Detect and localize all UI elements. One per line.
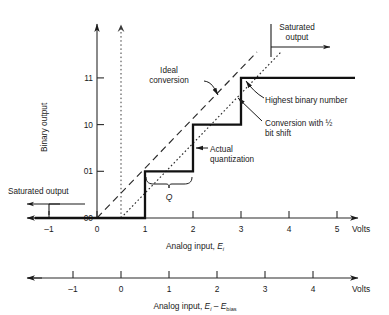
highest-binary-number-annotation: Highest binary number: [246, 81, 348, 105]
ideal-conversion-line2: conversion: [149, 76, 189, 85]
x-tick-label-4: 4: [287, 224, 292, 234]
x-tick-label-0: 0: [95, 224, 100, 234]
x-axis-primary-title-prefix: Analog input,: [166, 241, 217, 251]
highest-binary-number-label: Highest binary number: [265, 96, 348, 105]
y-tick-label-11: 11: [84, 73, 93, 83]
x2-tick-label-1: 1: [167, 284, 172, 294]
ideal-conversion-line1: Ideal: [160, 66, 178, 75]
ideal-conversion-annotation: Ideal conversion: [149, 66, 218, 95]
saturated-output-right-annotation: Saturated output: [271, 23, 330, 57]
adc-transfer-function-figure: 00 01 10 11 Binary output –1 0 1 2 3 4 5…: [0, 0, 389, 315]
x2-tick-label--1: –1: [68, 284, 78, 294]
x-axis-secondary: –1 0 1 2 3 4 Volts Analog input, Ei – Eb…: [27, 271, 370, 312]
saturated-output-right-line1: Saturated: [279, 23, 315, 32]
half-bit-shift-line1: Conversion with ½: [265, 119, 333, 128]
x2-tick-label-4: 4: [311, 284, 316, 294]
quantum-brace-shape: [146, 177, 192, 188]
x2-tick-label-3: 3: [263, 284, 268, 294]
x-tick-label-2: 2: [191, 224, 196, 234]
half-bit-reference-line: [118, 25, 125, 219]
x2-tick-label-0: 0: [119, 284, 124, 294]
x-tick-label-1: 1: [143, 224, 148, 234]
x-tick-label-3: 3: [239, 224, 244, 234]
y-tick-label-01: 01: [84, 166, 94, 176]
x-axis-primary-unit: Volts: [352, 224, 370, 234]
x-axis-secondary-title: Analog input, Ei – Ebias: [153, 301, 236, 312]
x-axis-primary-title: Analog input, Ei: [166, 241, 225, 252]
quantum-step-brace: Q: [146, 177, 192, 202]
saturated-output-right-line2: output: [286, 33, 309, 42]
y-tick-label-10: 10: [84, 120, 94, 130]
quantum-step-label: Q: [166, 192, 173, 202]
adc-quantization-chart: 00 01 10 11 Binary output –1 0 1 2 3 4 5…: [0, 0, 389, 315]
x2-title-minus: –: [211, 301, 220, 311]
half-bit-shift-line2: bit shift: [265, 129, 292, 138]
saturated-output-left-label: Saturated output: [8, 187, 69, 196]
saturated-output-left-annotation: Saturated output: [8, 187, 85, 215]
x-tick-label--1: –1: [44, 224, 54, 234]
x2-tick-label-2: 2: [215, 284, 220, 294]
actual-quantization-line2: quantization: [210, 155, 255, 164]
x-axis-primary-title-subscript: i: [223, 246, 225, 252]
actual-quantization-annotation: Actual quantization: [196, 145, 255, 164]
y-axis-title: Binary output: [39, 102, 49, 152]
highest-binary-number-leader: [246, 81, 264, 98]
ideal-conversion-leader: [204, 81, 218, 95]
actual-quantization-line1: Actual: [210, 145, 233, 154]
half-bit-arrow-head-icon: [118, 25, 125, 33]
x-tick-label-5: 5: [335, 224, 340, 234]
x2-title-sub-2: bias: [226, 306, 236, 312]
x2-title-prefix: Analog input,: [153, 301, 204, 311]
x-axis-secondary-unit: Volts: [352, 284, 370, 294]
